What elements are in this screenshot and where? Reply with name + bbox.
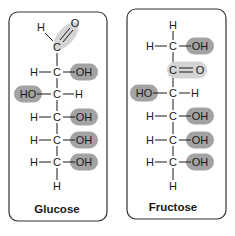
hydrogen-atom: H	[30, 156, 38, 168]
hydroxyl-group: OH	[76, 66, 93, 78]
hydrogen-atom: H	[75, 88, 83, 100]
carbon-atom: C	[169, 134, 177, 146]
hydrogen-atom: H	[146, 40, 154, 52]
molecule-name-label: Glucose	[34, 203, 79, 215]
hydrogen-atom: H	[146, 156, 154, 168]
oxygen-atom: O	[196, 64, 205, 76]
carbon-atom: C	[53, 41, 61, 53]
carbon-atom: C	[53, 88, 61, 100]
carbon-atom: C	[169, 40, 177, 52]
carbon-atom: C	[169, 64, 177, 76]
hydrogen-atom: H	[191, 87, 199, 99]
hydroxyl-group: HO	[136, 87, 153, 99]
hydrogen-atom: H	[53, 180, 61, 192]
oxygen-atom: O	[71, 17, 80, 29]
carbon-atom: C	[169, 87, 177, 99]
hydroxyl-group: OH	[76, 111, 93, 123]
hydrogen-atom: H	[30, 111, 38, 123]
hydrogen-atom: H	[169, 180, 177, 192]
carbon-atom: C	[53, 134, 61, 146]
molecule-name-label: Fructose	[149, 201, 198, 213]
molecule-glucose: CHOCHOHCHOHCHOHCHOHCHOHHGlucose	[9, 12, 107, 221]
hydroxyl-group: OH	[192, 134, 209, 146]
hydroxyl-group: OH	[76, 156, 93, 168]
carbon-atom: C	[53, 111, 61, 123]
hydrogen-atom: H	[30, 134, 38, 146]
hydroxyl-group: OH	[192, 40, 209, 52]
hydrogen-atom: H	[146, 110, 154, 122]
hydrogen-atom: H	[37, 21, 45, 33]
hydrogen-atom: H	[169, 19, 177, 31]
carbon-atom: C	[53, 156, 61, 168]
molecule-fructose: HCHOHCOCHOHCHOHCHOHCHOHHFructose	[127, 9, 226, 219]
carbon-atom: C	[53, 66, 61, 78]
hydroxyl-group: OH	[192, 156, 209, 168]
hydroxyl-group: OH	[192, 110, 209, 122]
hydroxyl-group: OH	[76, 134, 93, 146]
carbon-atom: C	[169, 156, 177, 168]
hydrogen-atom: H	[30, 66, 38, 78]
carbon-atom: C	[169, 110, 177, 122]
hydroxyl-group: HO	[20, 88, 37, 100]
hydrogen-atom: H	[146, 134, 154, 146]
sugar-structures-diagram: CHOCHOHCHOHCHOHCHOHCHOHHGlucoseHCHOHCOCH…	[0, 0, 235, 236]
